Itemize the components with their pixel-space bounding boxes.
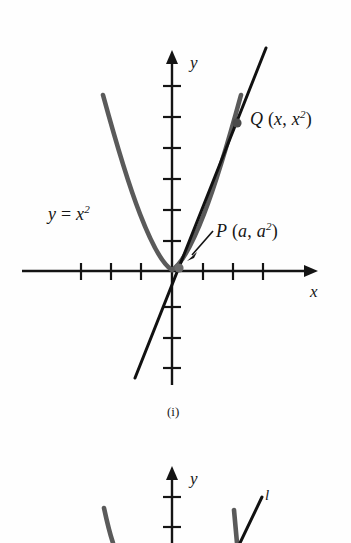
figure-one-x-axis-label: x (310, 283, 318, 300)
y-axis-arrowhead (166, 50, 178, 64)
figure-two-line-label: l (265, 488, 269, 503)
figure-two-parabola-right-branch (234, 510, 237, 543)
point-q-open-paren: ( (263, 109, 274, 129)
curve-equation-variable: x (76, 204, 84, 224)
figure-two-tangent-line (240, 497, 262, 543)
figure-one: y x y = x2 P (a, a2) Q (x, x2) (i) (0, 0, 351, 420)
figure-two-canvas (0, 440, 351, 543)
curve-equation-y: y (48, 204, 56, 224)
point-q-close-paren: ) (306, 109, 312, 129)
curve-equation-label: y = x2 (48, 205, 90, 223)
figure-two: y l (0, 440, 351, 543)
point-p-arg2: a (257, 221, 266, 241)
curve-equation-equals: = (56, 204, 76, 224)
point-p-name: P (216, 221, 227, 241)
figure-one-y-axis-label: y (190, 54, 198, 71)
point-q-comma: , (282, 109, 291, 129)
curve-equation-exponent: 2 (84, 203, 90, 215)
point-q-name: Q (250, 109, 263, 129)
point-p-marker (174, 263, 183, 272)
figure-one-caption: (i) (167, 404, 179, 420)
figure-two-y-axis-arrowhead (166, 466, 178, 480)
x-axis-arrowhead (304, 265, 318, 277)
point-p-close-paren: ) (272, 221, 278, 241)
point-p-arg1: a (238, 221, 247, 241)
figure-page: y x y = x2 P (a, a2) Q (x, x2) (i) (0, 0, 351, 543)
point-q-arg2: x (292, 109, 300, 129)
secant-line-pq (135, 48, 266, 378)
figure-two-y-axis-label: y (190, 470, 198, 487)
point-q-label: Q (x, x2) (250, 110, 312, 128)
figure-two-parabola-left-branch (104, 508, 113, 543)
point-p-label: P (a, a2) (216, 222, 278, 240)
point-p-open-paren: ( (227, 221, 238, 241)
point-q-marker (232, 118, 241, 127)
point-p-comma: , (247, 221, 256, 241)
